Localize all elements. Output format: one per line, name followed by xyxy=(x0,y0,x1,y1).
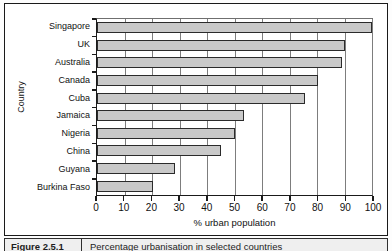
x-axis-tick-label: 10 xyxy=(118,201,129,215)
x-axis-tick-label: 100 xyxy=(365,201,382,215)
x-axis-title: % urban population xyxy=(96,217,373,228)
bar-slot xyxy=(97,142,372,160)
bar-slot xyxy=(97,54,372,72)
bar-slot xyxy=(97,177,372,195)
y-axis-tick-labels: SingaporeUKAustraliaCanadaCubaJamaicaNig… xyxy=(25,18,93,196)
x-axis-tick-label: 60 xyxy=(257,201,268,215)
x-axis-tick-label: 40 xyxy=(201,201,212,215)
y-axis-tick-label: Guyana xyxy=(25,160,93,178)
y-axis-tick-label: Australia xyxy=(25,54,93,72)
x-axis-tick-label: 90 xyxy=(340,201,351,215)
chart-frame: Country SingaporeUKAustraliaCanadaCubaJa… xyxy=(4,3,388,236)
bar-slot xyxy=(97,89,372,107)
x-axis-tick-label: 70 xyxy=(284,201,295,215)
y-axis-tick-label: Jamaica xyxy=(25,107,93,125)
figure-caption-text: Percentage urbanisation in selected coun… xyxy=(82,239,387,251)
figure-root: Country SingaporeUKAustraliaCanadaCubaJa… xyxy=(0,0,392,251)
x-axis-tick-label: 0 xyxy=(93,201,99,215)
figure-caption-number: Figure 2.5.1 xyxy=(5,239,81,251)
bar-series xyxy=(97,19,372,195)
x-axis-tick-label: 80 xyxy=(312,201,323,215)
y-axis-tick-label: China xyxy=(25,143,93,161)
bar-slot xyxy=(97,125,372,143)
x-axis-tick-label: 20 xyxy=(146,201,157,215)
bar-slot xyxy=(97,37,372,55)
bar[interactable] xyxy=(97,181,153,192)
bar-slot xyxy=(97,19,372,37)
x-axis-tick-label: 30 xyxy=(174,201,185,215)
x-axis-tick-labels: 0102030405060708090100 xyxy=(96,201,373,215)
bar[interactable] xyxy=(97,163,175,174)
y-axis-tick-label: Burkina Faso xyxy=(25,178,93,196)
bar[interactable] xyxy=(97,110,244,121)
bar[interactable] xyxy=(97,57,342,68)
y-axis-tick-label: Cuba xyxy=(25,89,93,107)
y-axis-tick-label: Singapore xyxy=(25,18,93,36)
bar[interactable] xyxy=(97,40,345,51)
bar[interactable] xyxy=(97,93,305,104)
y-axis-tick-label: UK xyxy=(25,36,93,54)
bar-slot xyxy=(97,107,372,125)
gridline xyxy=(372,19,373,195)
x-axis-tick-label: 50 xyxy=(229,201,240,215)
y-axis-tick-label: Canada xyxy=(25,71,93,89)
plot-area xyxy=(96,18,373,196)
bar[interactable] xyxy=(97,22,372,33)
bar[interactable] xyxy=(97,128,235,139)
bar[interactable] xyxy=(97,75,318,86)
figure-caption-bar: Figure 2.5.1 Percentage urbanisation in … xyxy=(4,238,388,251)
bar[interactable] xyxy=(97,145,221,156)
bar-slot xyxy=(97,160,372,178)
bar-slot xyxy=(97,72,372,90)
y-axis-tick-label: Nigeria xyxy=(25,125,93,143)
